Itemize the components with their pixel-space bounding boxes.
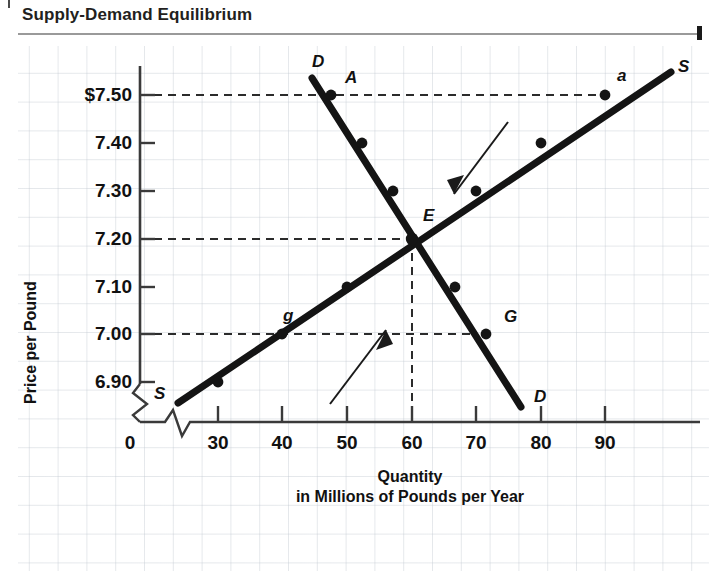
demand-curve-label-bottom: D — [534, 387, 546, 407]
x-tick-label-90: 90 — [585, 432, 625, 454]
x-axis-title-line2: in Millions of Pounds per Year — [220, 488, 600, 506]
supply-demand-chart: $7.50 7.40 7.30 7.20 7.10 7.00 6.90 Pric… — [0, 44, 709, 571]
supply-curve-label-bottom: S — [154, 384, 165, 404]
y-axis-ticks — [140, 95, 155, 382]
x-tick-label-60: 60 — [392, 432, 432, 454]
page-title: Supply-Demand Equilibrium — [22, 5, 252, 25]
x-tick-label-70: 70 — [456, 432, 496, 454]
y-axis-title: Price per Pound — [22, 281, 40, 404]
x-tick-label-30: 30 — [198, 432, 238, 454]
title-corner-tick — [8, 0, 10, 8]
demand-arrow — [447, 122, 508, 194]
y-tick-label-0: $7.50 — [40, 84, 132, 106]
y-axis — [133, 66, 147, 422]
supply-curve — [178, 72, 671, 403]
x-tick-label-40: 40 — [262, 432, 302, 454]
y-tick-label-5: 7.00 — [40, 323, 132, 345]
x-axis-ticks — [218, 406, 605, 422]
y-tick-label-1: 7.40 — [40, 132, 132, 154]
supply-curve-label-top: S — [678, 57, 689, 77]
supply-arrow — [330, 330, 393, 404]
x-axis-title-line1: Quantity — [220, 468, 600, 486]
title-bar: Supply-Demand Equilibrium — [0, 0, 709, 40]
y-tick-label-6: 6.90 — [40, 371, 132, 393]
y-tick-label-3: 7.20 — [40, 228, 132, 250]
y-tick-label-4: 7.10 — [40, 276, 132, 298]
point-label-a: a — [617, 66, 626, 86]
chart-page: Supply-Demand Equilibrium — [0, 0, 709, 571]
point-label-A: A — [345, 68, 357, 88]
y-tick-label-2: 7.30 — [40, 180, 132, 202]
title-end-marker — [697, 26, 702, 40]
demand-curve-points — [326, 90, 492, 340]
title-divider — [18, 33, 702, 35]
x-tick-label-0: 0 — [110, 432, 150, 454]
x-tick-label-80: 80 — [521, 432, 561, 454]
point-label-E: E — [423, 206, 434, 226]
point-label-G: G — [504, 307, 517, 327]
demand-curve-label-top: D — [312, 52, 324, 72]
x-tick-label-50: 50 — [327, 432, 367, 454]
point-label-g: g — [283, 306, 293, 326]
